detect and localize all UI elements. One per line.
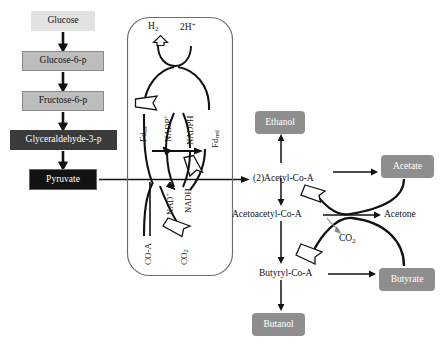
label-co2-cycle-text: CO xyxy=(179,252,189,265)
label-2h-plus-text: 2H xyxy=(180,22,192,32)
node-ethanol-label: Ethanol xyxy=(265,118,295,128)
label-fd-red-text: Fd xyxy=(210,138,220,148)
label-fd-ox: Fdox xyxy=(139,126,149,142)
label-acetone-text: Acetone xyxy=(384,209,416,219)
label-acetyl-co-a: (2)Acetyl-Co-A xyxy=(253,174,314,184)
node-acetate-label: Acetate xyxy=(393,162,422,172)
label-acetyl-co-a-text: (2)Acetyl-Co-A xyxy=(253,173,314,183)
label-2h-plus: 2H+ xyxy=(180,22,195,32)
label-nadh: NADH xyxy=(184,188,193,213)
pathway-diagram-canvas: Glucose Glucose-6-p Fructose-6-p Glycera… xyxy=(0,0,448,351)
label-butyryl-co-a: Butyryl-Co-A xyxy=(259,269,312,279)
label-co2-cycle-sub: 2 xyxy=(182,249,189,252)
label-fd-red: Fdred xyxy=(211,130,221,148)
label-nadph-text: NADPH xyxy=(185,116,195,145)
node-glyceraldehyde-3-p-label: Glyceraldehyde-3-p xyxy=(26,135,102,145)
label-h2-text: H xyxy=(148,21,155,31)
node-butyrate-label: Butyrate xyxy=(391,275,424,285)
node-fructose-6-p-label: Fructose-6-p xyxy=(39,96,88,106)
label-acetone: Acetone xyxy=(384,210,416,220)
node-acetate[interactable]: Acetate xyxy=(381,155,434,178)
label-nad-plus: NAD+ xyxy=(165,193,174,215)
label-h2: H2 xyxy=(148,22,158,32)
label-nad-plus-text: NAD xyxy=(165,197,175,215)
label-butyryl-co-a-text: Butyryl-Co-A xyxy=(259,268,312,278)
label-nadp-plus-text: NADP xyxy=(163,119,173,142)
node-fructose-6-p[interactable]: Fructose-6-p xyxy=(22,91,104,111)
node-butanol-label: Butanol xyxy=(263,320,293,330)
label-co2-acetone: CO2 xyxy=(339,234,356,244)
label-nad-plus-sup: + xyxy=(165,193,171,196)
label-co2-acetone-text: CO xyxy=(339,233,352,243)
label-fd-red-sub: red xyxy=(213,130,220,138)
label-fd-ox-text: Fd xyxy=(138,132,148,142)
label-nadp-plus: NADP+ xyxy=(163,115,172,142)
label-h2-sub: 2 xyxy=(155,25,158,32)
label-co2-acetone-sub: 2 xyxy=(352,237,355,244)
node-ethanol[interactable]: Ethanol xyxy=(255,111,305,134)
node-glucose-label: Glucose xyxy=(47,16,78,26)
node-butyrate[interactable]: Butyrate xyxy=(379,268,435,291)
label-co2-cycle: CO2 xyxy=(180,249,190,265)
label-fd-ox-sub: ox xyxy=(141,126,148,132)
label-nadp-plus-sup: + xyxy=(163,115,169,118)
node-pyruvate-label: Pyruvate xyxy=(46,175,80,185)
node-glucose-6-p[interactable]: Glucose-6-p xyxy=(22,51,104,71)
node-glyceraldehyde-3-p[interactable]: Glyceraldehyde-3-p xyxy=(10,130,117,150)
label-co-a-text: CO-A xyxy=(143,243,153,265)
node-pyruvate[interactable]: Pyruvate xyxy=(29,169,97,190)
label-2h-plus-sup: + xyxy=(192,21,196,28)
node-butanol[interactable]: Butanol xyxy=(252,313,305,336)
label-co-a: CO-A xyxy=(144,243,153,265)
node-glucose-6-p-label: Glucose-6-p xyxy=(40,56,87,66)
node-glucose[interactable]: Glucose xyxy=(31,11,95,31)
label-nadph: NADPH xyxy=(186,116,195,145)
label-nadh-text: NADH xyxy=(183,188,193,213)
label-acetoacetyl-co-a: Acetoacetyl-Co-A xyxy=(232,210,302,220)
label-acetoacetyl-co-a-text: Acetoacetyl-Co-A xyxy=(232,209,302,219)
